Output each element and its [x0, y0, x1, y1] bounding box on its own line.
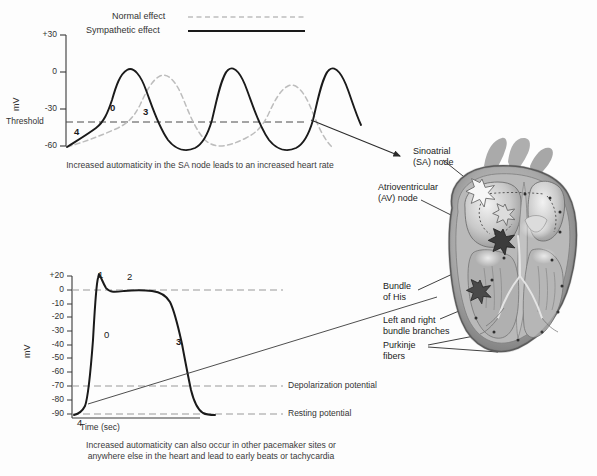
figure-canvas: Normal effect Sympathetic effect +30 0 -…	[0, 0, 597, 476]
bottom-chart-phase-1: 1	[98, 270, 103, 281]
bottom-chart-caption-line2: anywhere else in the heart and lead to e…	[66, 452, 356, 462]
annotation-av-node-line1: Atrioventricular	[378, 182, 438, 192]
sa-node-pointer-arrow	[311, 120, 400, 156]
bottom-chart-phase-0: 0	[104, 330, 109, 341]
chamber-glow-left	[475, 249, 501, 267]
top-chart-axes	[60, 35, 305, 146]
heart-anatomy-illustration	[432, 136, 595, 361]
chamber-glow-right	[532, 248, 556, 264]
top-chart-tick-plus30: +30	[32, 30, 57, 40]
bottom-chart-tick-minus70: -70	[36, 381, 64, 391]
bottom-chart-phase-3: 3	[176, 337, 181, 348]
annotation-sa-node-line1: Sinoatrial	[413, 146, 451, 156]
bottom-chart-depolarization-label: Depolarization potential	[288, 381, 377, 391]
bottom-chart-phase-2: 2	[127, 272, 132, 283]
annotation-bundle-branches-line2: bundle branches	[383, 326, 450, 336]
annotation-bundle-of-his: Bundle of His	[383, 281, 411, 304]
annotation-bundle-of-his-line1: Bundle	[383, 281, 411, 291]
bottom-chart-tick-minus20: -20	[36, 312, 64, 322]
annotation-av-node: Atrioventricular (AV) node	[378, 182, 438, 205]
legend-label-normal-effect: Normal effect	[112, 11, 165, 21]
top-chart-tick-minus60: -60	[32, 141, 57, 151]
top-chart-y-axis-label: mV	[11, 98, 21, 112]
annotation-bundle-of-his-line2: of His	[383, 292, 406, 302]
top-chart-caption: Increased automaticity in the SA node le…	[50, 161, 350, 171]
annotation-purkinje-fibers: Purkinje fibers	[383, 340, 416, 363]
annotation-sa-node: Sinoatrial (SA) node	[413, 146, 454, 169]
heart-svg	[432, 136, 595, 361]
bottom-chart-tick-minus60: -60	[36, 367, 64, 377]
bottom-chart-tick-minus80: -80	[36, 395, 64, 405]
annotation-bundle-branches: Left and right bundle branches	[383, 315, 450, 338]
bottom-chart-tick-minus50: -50	[36, 353, 64, 363]
bottom-chart-x-axis-label: Time (sec)	[80, 423, 120, 433]
top-chart-phase-3: 3	[143, 107, 148, 118]
bottom-chart-tick-minus30: -30	[36, 326, 64, 336]
top-chart-tick-minus30: -30	[32, 104, 57, 114]
annotation-purkinje-fibers-line1: Purkinje	[383, 340, 416, 350]
top-chart-phase-0: 0	[110, 103, 115, 114]
bottom-chart-axes	[67, 276, 283, 418]
bottom-chart-tick-plus20: +20	[36, 271, 64, 281]
bottom-chart-tick-0: 0	[36, 285, 64, 295]
top-chart-legend-lines	[188, 17, 305, 31]
top-chart-threshold-label: Threshold	[6, 117, 44, 127]
bottom-chart-tick-minus40: -40	[36, 340, 64, 350]
bottom-chart-tick-minus90: -90	[36, 409, 64, 419]
bottom-chart-tick-minus10: -10	[36, 299, 64, 309]
bottom-chart-y-axis-label: mV	[22, 345, 32, 359]
bottom-chart-caption-line1: Increased automaticity can also occur in…	[66, 441, 356, 451]
top-chart-phase-4: 4	[74, 127, 79, 138]
top-chart-tick-zero: 0	[32, 67, 57, 77]
annotation-bundle-branches-line1: Left and right	[383, 315, 436, 325]
annotation-sa-node-line2: (SA) node	[413, 157, 454, 167]
annotation-purkinje-fibers-line2: fibers	[383, 351, 405, 361]
legend-label-sympathetic-effect: Sympathetic effect	[86, 25, 160, 35]
bottom-chart-phase-4: 4	[77, 418, 82, 429]
annotation-av-node-line2: (AV) node	[378, 193, 418, 203]
bottom-chart-resting-label: Resting potential	[288, 409, 351, 419]
